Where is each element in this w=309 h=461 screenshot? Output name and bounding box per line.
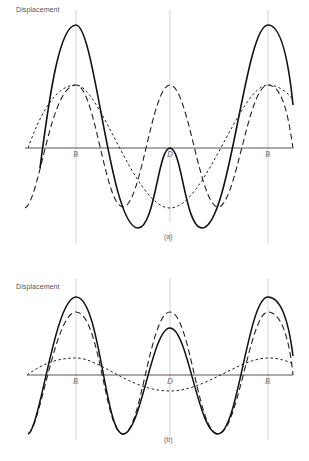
panel-b-tick-b-right: B bbox=[265, 377, 270, 386]
panel-b-gridlines bbox=[76, 278, 268, 440]
panel-b-tick-b-left: B bbox=[73, 377, 78, 386]
panel-a-solid-curve bbox=[40, 25, 293, 228]
panel-a-tick-d: D bbox=[167, 150, 173, 159]
panel-a-tick-b-right: B bbox=[265, 150, 270, 159]
panel-a-y-axis-label: Displacement bbox=[16, 6, 60, 13]
panel-b-long-dash-curve bbox=[28, 312, 293, 434]
panel-b-tick-d: D bbox=[167, 377, 173, 386]
panel-b-y-axis-label: Displacement bbox=[16, 283, 60, 290]
panel-a-caption: (a) bbox=[164, 233, 173, 240]
panel-b-short-dash-curve bbox=[27, 358, 293, 391]
figure-canvas bbox=[0, 0, 309, 461]
panel-a-long-dash-curve bbox=[25, 85, 293, 208]
panel-a-gridlines bbox=[76, 10, 268, 243]
panel-b-caption: (b) bbox=[164, 436, 173, 443]
panel-a-short-dash-curve bbox=[28, 85, 293, 208]
panel-a-tick-b-left: B bbox=[73, 150, 78, 159]
